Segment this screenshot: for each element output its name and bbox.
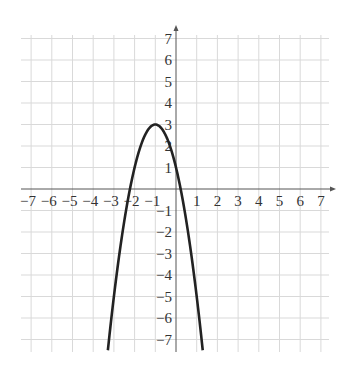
x-tick-label: 3 xyxy=(234,193,242,209)
x-tick-label: 1 xyxy=(193,193,201,209)
parabola-chart: −7−6−5−4−3−2−11234567 7654321−1−2−3−4−5−… xyxy=(0,0,351,369)
y-tick-label: −1 xyxy=(156,203,172,219)
y-tick-label: 1 xyxy=(165,160,173,176)
x-tick-label: 5 xyxy=(276,193,284,209)
x-tick-label: −6 xyxy=(41,193,57,209)
x-tick-labels: −7−6−5−4−3−2−11234567 xyxy=(20,193,325,209)
x-tick-label: 7 xyxy=(317,193,325,209)
x-tick-label: −7 xyxy=(20,193,36,209)
x-tick-label: 6 xyxy=(296,193,304,209)
x-tick-label: −3 xyxy=(103,193,119,209)
y-tick-label: 3 xyxy=(165,117,173,133)
y-axis-arrow-icon xyxy=(174,25,179,31)
x-tick-label: 2 xyxy=(214,193,222,209)
y-tick-label: 5 xyxy=(165,74,173,90)
y-tick-label: −7 xyxy=(156,332,172,348)
x-axis-arrow-icon xyxy=(330,187,336,192)
y-tick-label: −6 xyxy=(156,310,172,326)
y-tick-label: −5 xyxy=(156,289,172,305)
x-tick-label: −4 xyxy=(82,193,98,209)
x-tick-label: −5 xyxy=(62,193,78,209)
y-tick-label: −2 xyxy=(156,224,172,240)
x-tick-label: 4 xyxy=(255,193,263,209)
y-tick-label: 4 xyxy=(165,95,173,111)
y-tick-label: −3 xyxy=(156,246,172,262)
y-tick-label: 7 xyxy=(165,31,173,47)
y-tick-label: −4 xyxy=(156,267,172,283)
y-tick-label: 6 xyxy=(165,52,173,68)
